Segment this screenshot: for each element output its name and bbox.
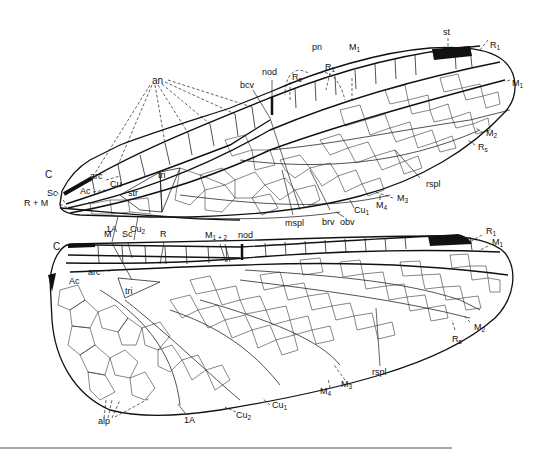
label-hw-nod: nod: [238, 230, 253, 240]
label-fw-brv: brv: [322, 217, 335, 227]
wing-venation-diagram: C Sc R + M arc Ac Cu str tri an bcv nod …: [0, 0, 540, 458]
label-fw-str: str: [128, 188, 138, 198]
label-hw-M: M: [104, 229, 112, 239]
label-fw-Sc: Sc: [47, 188, 58, 198]
label-fw-M3: M3: [397, 193, 409, 204]
label-fw-tri: tri: [158, 170, 166, 180]
label-fw-R1-inner: R1: [325, 62, 336, 73]
label-fw-Rs-base: Rs: [292, 72, 303, 83]
label-hw-Sc: Sc: [122, 229, 133, 239]
hw-pterostigma: [428, 234, 472, 246]
label-hw-M1: M1: [492, 237, 504, 248]
forewing: C Sc R + M arc Ac Cu str tri an bcv nod …: [24, 27, 524, 242]
label-fw-Cu1: Cu1: [354, 205, 370, 216]
label-fw-R1-tip: R1: [490, 40, 501, 51]
label-fw-rspl: rspl: [426, 179, 441, 189]
label-hw-C: C: [53, 241, 60, 252]
label-fw-nod: nod: [262, 67, 277, 77]
label-fw-M1-tip: M1: [512, 78, 524, 89]
label-fw-arc: arc: [90, 171, 103, 181]
label-fw-an: an: [152, 75, 163, 86]
label-fw-Rs: Rs: [478, 142, 489, 153]
label-fw-Ac: Ac: [80, 186, 91, 196]
label-fw-st: st: [443, 27, 451, 37]
label-hw-1A: 1A: [184, 415, 195, 425]
label-hw-R1: R1: [486, 226, 497, 237]
label-fw-M4: M4: [376, 200, 388, 211]
label-fw-RM: R + M: [24, 198, 48, 208]
label-fw-C: C: [45, 169, 52, 180]
label-fw-pn: pn: [312, 42, 322, 52]
label-fw-mspl: mspl: [285, 218, 304, 228]
label-hw-rspl: rspl: [372, 367, 387, 377]
hw-costa-base: [68, 245, 95, 246]
label-hw-tri: tri: [125, 286, 133, 296]
label-fw-Cu: Cu: [110, 179, 122, 189]
label-hw-Ac: Ac: [69, 276, 80, 286]
label-fw-bcv: bcv: [240, 80, 255, 90]
label-hw-M12: M1 + 2: [205, 230, 228, 241]
label-hw-Cu2: Cu2: [236, 410, 252, 421]
label-hw-alp: alp: [98, 416, 110, 426]
label-hw-Cu1: Cu1: [272, 400, 288, 411]
label-fw-M1-inner: M1: [349, 42, 361, 53]
hindwing: C M Sc R M1 + 2 nod arc Ac tri R1 M1 M2 …: [48, 226, 513, 426]
label-hw-R: R: [160, 229, 167, 239]
label-fw-M2: M2: [486, 128, 498, 139]
label-fw-obv: obv: [340, 217, 355, 227]
label-hw-arc: arc: [88, 267, 101, 277]
